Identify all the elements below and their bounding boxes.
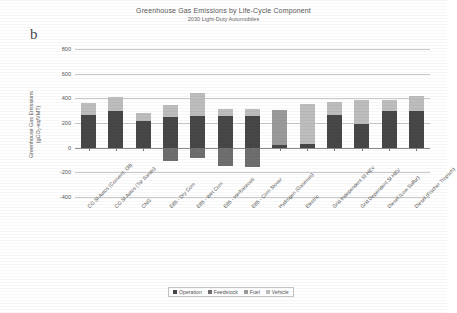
y-tick-label-200: 200 xyxy=(62,120,71,126)
x-tick xyxy=(334,148,335,151)
bar-segment-operation xyxy=(108,111,123,148)
legend-item-vehicle: Vehicle xyxy=(266,289,289,295)
legend-swatch-feedstock xyxy=(208,290,212,294)
bar-segment-vehicle xyxy=(163,105,178,117)
x-tick xyxy=(143,148,144,151)
legend-item-fuel: Fuel xyxy=(244,289,260,295)
legend-item-feedstock: Feedstock xyxy=(208,289,238,295)
y-tick-label--200: -200 xyxy=(60,169,71,175)
x-tick xyxy=(307,148,308,151)
legend-swatch-vehicle xyxy=(266,290,270,294)
bar-segment-vehicle xyxy=(136,113,151,121)
x-tick xyxy=(116,148,117,151)
chart-legend: Operation Feedstock Fuel Vehicle xyxy=(168,287,294,297)
bar-segment-vehicle xyxy=(245,109,260,116)
legend-label-operation: Operation xyxy=(179,289,202,295)
bar-segment-fuel xyxy=(272,110,287,145)
x-tick xyxy=(253,148,254,151)
x-tick xyxy=(89,148,90,151)
bar-segment-vehicle xyxy=(354,100,369,123)
bar-segment-vehicle xyxy=(382,100,397,110)
legend-label-vehicle: Vehicle xyxy=(272,289,289,295)
legend-swatch-operation xyxy=(173,290,177,294)
legend-swatch-fuel xyxy=(244,290,248,294)
bar-segment-vehicle xyxy=(218,109,233,116)
bar-segment-operation xyxy=(81,115,96,148)
y-tick-label-0: 0 xyxy=(68,145,71,151)
bar-segment-operation xyxy=(354,124,369,148)
bar-segment-operation xyxy=(382,111,397,148)
bar-segment-vehicle xyxy=(300,104,315,144)
x-tick xyxy=(389,148,390,151)
bar-segment-vehicle xyxy=(81,103,96,115)
bar-segment-operation xyxy=(136,121,151,148)
bar-segment-operation xyxy=(327,115,342,148)
legend-item-operation: Operation xyxy=(173,289,202,295)
x-tick xyxy=(171,148,172,151)
x-axis-labels: CG SI Autos (Convent. Oil)CG SI Autos (T… xyxy=(0,0,447,100)
bar-segment-operation xyxy=(245,116,260,147)
bar-segment-vehicle xyxy=(327,102,342,115)
x-tick xyxy=(362,148,363,151)
bar-segment-operation xyxy=(190,116,205,147)
y-tick-label--400: -400 xyxy=(60,194,71,200)
x-tick xyxy=(280,148,281,151)
bar-segment-operation xyxy=(409,111,424,147)
x-tick xyxy=(416,148,417,151)
x-tick xyxy=(225,148,226,151)
legend-label-fuel: Fuel xyxy=(250,289,260,295)
legend-label-feedstock: Feedstock xyxy=(214,289,238,295)
bar-segment-operation xyxy=(218,116,233,147)
x-tick xyxy=(198,148,199,151)
bar-segment-operation xyxy=(163,117,178,148)
x-axis-label: CNG xyxy=(140,197,152,209)
